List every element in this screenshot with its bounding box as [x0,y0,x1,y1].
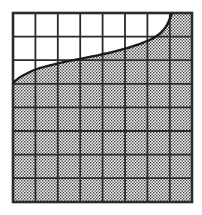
figure-root [0,0,202,215]
grid-area-figure [0,0,202,215]
